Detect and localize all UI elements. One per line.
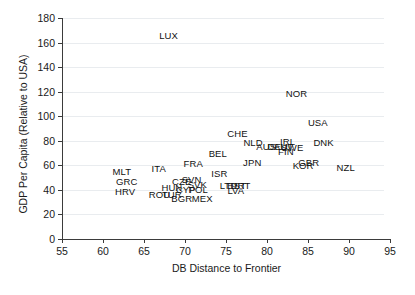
data-point-label: ITA (152, 162, 166, 173)
data-point-label: FIN (278, 145, 294, 156)
data-point-label: MEX (192, 193, 213, 204)
data-point-label: FRA (184, 157, 203, 168)
y-axis-tick-label: 120 (37, 86, 55, 98)
x-axis-tick-label: 95 (384, 245, 396, 257)
y-axis-title: GDP Per Capita (Relative to USA) (17, 29, 29, 239)
gridline (62, 116, 384, 117)
gridline (62, 43, 384, 44)
x-axis-tick-label: 60 (97, 245, 109, 257)
gridline (62, 67, 384, 68)
y-axis-tick (58, 116, 62, 117)
x-axis-tick (390, 239, 391, 243)
y-axis-tick-label: 40 (43, 184, 55, 196)
scatter-chart-figure: 020406080100120140160180 LUXNORUSACHENLD… (0, 0, 415, 295)
x-axis-tick-label: 55 (56, 245, 68, 257)
y-axis-tick (58, 43, 62, 44)
y-axis-tick (58, 190, 62, 191)
data-point-label: KOR (293, 160, 314, 171)
data-point-label: HRV (115, 186, 135, 197)
x-axis-tick-label: 85 (302, 245, 314, 257)
x-axis-title: DB Distance to Frontier (62, 262, 391, 274)
x-axis-tick (103, 239, 104, 243)
y-axis-tick (58, 18, 62, 19)
plot-area: LUXNORUSACHENLDAUSDEUIRLAUTSWEFINDNKBELF… (62, 18, 390, 239)
gridline (62, 141, 384, 142)
y-axis-tick-label: 20 (43, 208, 55, 220)
gridline (62, 92, 384, 93)
x-axis-tick (62, 239, 63, 243)
data-point-label: BEL (209, 148, 227, 159)
x-axis-tick-label: 80 (261, 245, 273, 257)
x-axis-tick (349, 239, 350, 243)
data-point-label: LUX (159, 30, 178, 41)
x-axis-tick-label: 75 (220, 245, 232, 257)
y-axis-tick (58, 214, 62, 215)
x-axis-tick-label: 70 (179, 245, 191, 257)
y-axis-tick-label: 60 (43, 159, 55, 171)
y-axis-tick-label: 140 (37, 61, 55, 73)
y-axis-spine (62, 18, 63, 240)
data-point-label: JPN (243, 156, 261, 167)
data-point-label: NOR (286, 87, 307, 98)
x-axis-tick (144, 239, 145, 243)
data-point-label: USA (308, 117, 328, 128)
x-axis-tick-label: 90 (343, 245, 355, 257)
y-axis-tick-label: 100 (37, 110, 55, 122)
y-axis-tick-label: 160 (37, 37, 55, 49)
data-point-label: DNK (313, 137, 333, 148)
gridline (62, 18, 384, 19)
y-axis-tick-label: 0 (49, 233, 55, 245)
data-point-label: BGR (171, 193, 192, 204)
data-point-label: ISR (211, 167, 227, 178)
x-axis-tick (267, 239, 268, 243)
gridline (62, 214, 384, 215)
y-axis-tick (58, 141, 62, 142)
y-axis-tick-label: 80 (43, 135, 55, 147)
y-axis-tick (58, 92, 62, 93)
data-point-label: NZL (337, 161, 355, 172)
x-axis-tick (226, 239, 227, 243)
y-axis-tick (58, 165, 62, 166)
x-axis-tick-label: 65 (138, 245, 150, 257)
y-axis-tick-label: 180 (37, 12, 55, 24)
x-axis-tick (308, 239, 309, 243)
x-axis-tick (185, 239, 186, 243)
y-axis-tick (58, 67, 62, 68)
data-point-label: LVA (227, 184, 244, 195)
